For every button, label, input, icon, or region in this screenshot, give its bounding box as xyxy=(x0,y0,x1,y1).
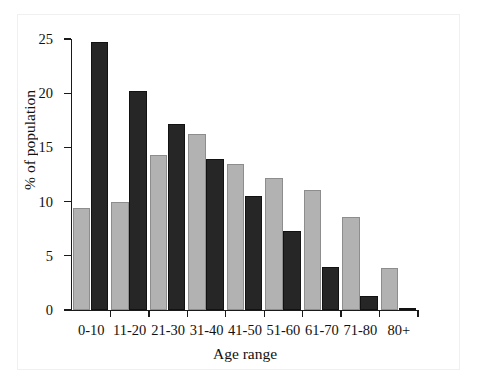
y-tick-15: 15 xyxy=(64,147,71,148)
y-tick-10: 10 xyxy=(64,201,71,202)
x-category-label-61-70: 61-70 xyxy=(305,322,339,339)
x-category-label-0-10: 0-10 xyxy=(78,322,105,339)
bar-41-50-dark-series xyxy=(245,196,263,310)
x-category-label-41-50: 41-50 xyxy=(228,322,262,339)
x-tick-8 xyxy=(379,310,380,317)
y-tick-label-5: 5 xyxy=(46,247,53,264)
y-tick-label-10: 10 xyxy=(39,193,54,210)
plot-area: 0510152025 0-1011-2021-3031-4041-5051-60… xyxy=(72,39,418,310)
bar-80+-dark-series xyxy=(399,308,417,310)
x-tick-6 xyxy=(302,310,303,317)
x-category-label-51-60: 51-60 xyxy=(267,322,301,339)
bar-41-50-light-gray-series xyxy=(227,164,245,310)
x-category-label-21-30: 21-30 xyxy=(151,322,185,339)
bar-71-80-dark-series xyxy=(360,296,378,310)
bar-31-40-light-gray-series xyxy=(188,134,206,310)
x-category-label-31-40: 31-40 xyxy=(190,322,224,339)
x-tick-1 xyxy=(110,310,111,317)
x-category-label-11-20: 11-20 xyxy=(113,322,146,339)
x-tick-2 xyxy=(148,310,149,317)
y-tick-label-25: 25 xyxy=(39,31,54,48)
x-category-label-71-80: 71-80 xyxy=(343,322,377,339)
bar-51-60-dark-series xyxy=(283,231,301,310)
y-tick-label-20: 20 xyxy=(39,85,54,102)
x-axis-line xyxy=(71,310,419,311)
bar-0-10-light-gray-series xyxy=(73,208,91,310)
bar-71-80-light-gray-series xyxy=(342,217,360,310)
x-tick-4 xyxy=(225,310,226,317)
bar-0-10-dark-series xyxy=(91,42,109,310)
y-tick-0: 0 xyxy=(64,309,71,310)
y-tick-20: 20 xyxy=(64,93,71,94)
bar-21-30-light-gray-series xyxy=(150,155,168,310)
bar-11-20-light-gray-series xyxy=(111,202,129,310)
y-tick-5: 5 xyxy=(64,255,71,256)
figure-canvas: % of population Age range 0510152025 0-1… xyxy=(0,0,477,386)
y-tick-label-0: 0 xyxy=(46,301,53,318)
y-tick-25: 25 xyxy=(64,38,71,39)
x-axis-title: Age range xyxy=(72,345,418,363)
x-tick-5 xyxy=(264,310,265,317)
bar-61-70-light-gray-series xyxy=(304,190,322,310)
x-tick-end xyxy=(417,310,418,317)
x-category-label-80+: 80+ xyxy=(387,322,410,339)
bar-11-20-dark-series xyxy=(129,91,147,310)
bar-61-70-dark-series xyxy=(322,267,340,310)
bar-31-40-dark-series xyxy=(206,159,224,310)
x-tick-7 xyxy=(340,310,341,317)
bar-51-60-light-gray-series xyxy=(265,178,283,310)
x-tick-3 xyxy=(187,310,188,317)
y-tick-label-15: 15 xyxy=(39,139,54,156)
bar-21-30-dark-series xyxy=(168,124,186,310)
bar-80+-light-gray-series xyxy=(381,268,399,310)
